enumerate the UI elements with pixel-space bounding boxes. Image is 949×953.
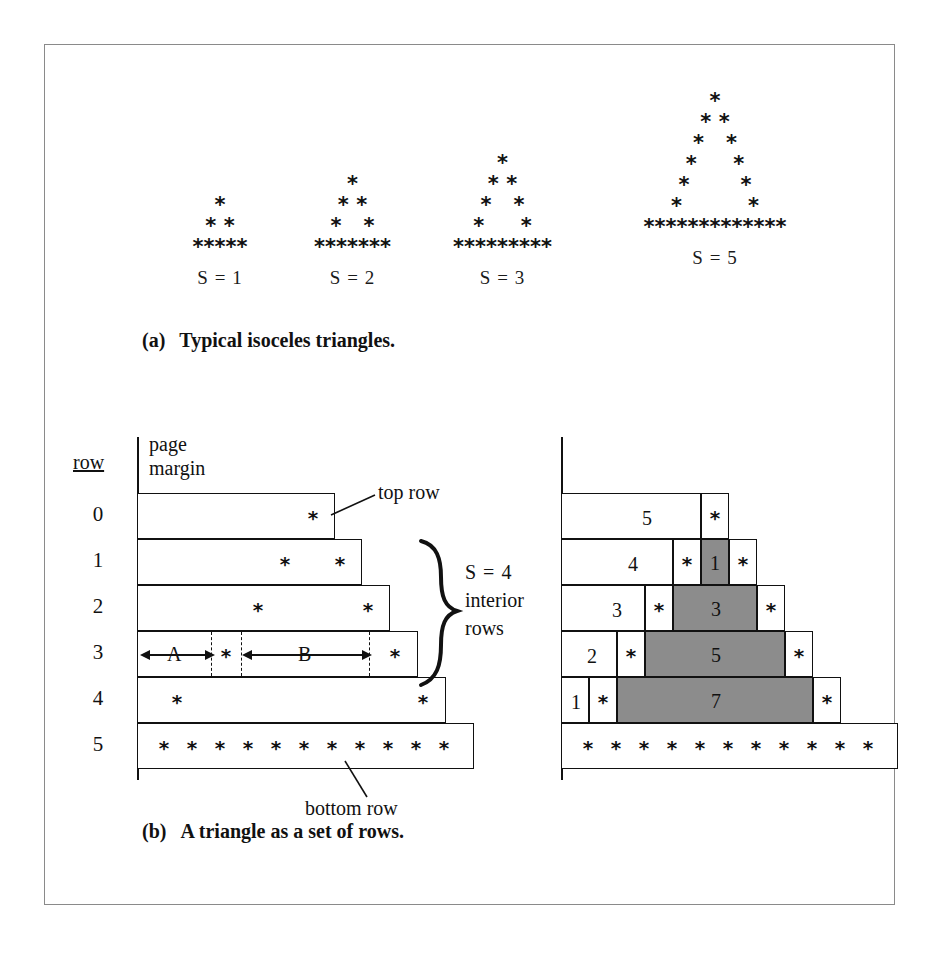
right-row-box-3-interior: 5 xyxy=(645,631,785,677)
left-row-box-4: * * xyxy=(137,677,446,723)
triangle-s2-row-0: * xyxy=(280,174,425,195)
segment-b-label: B xyxy=(298,643,311,666)
left-row-label-1: 1 xyxy=(85,548,111,573)
top-row-label: top row xyxy=(378,481,440,504)
star-glyph: * xyxy=(598,692,608,712)
triangle-s5-row-3: * * xyxy=(590,154,840,175)
triangle-s3-label: S = 3 xyxy=(415,267,590,289)
triangle-s5-label: S = 5 xyxy=(590,247,840,269)
star-glyph: * xyxy=(383,738,393,758)
left-row-label-3: 3 xyxy=(85,640,111,665)
bottom-row-label: bottom row xyxy=(305,797,398,820)
right-row-box-3-star-left: * xyxy=(617,631,645,677)
star-glyph: * xyxy=(779,738,789,758)
star-glyph: * xyxy=(639,738,649,758)
right-row-3-count: 2 xyxy=(587,645,597,668)
triangle-s1: * * * ***** S = 1 xyxy=(155,195,285,289)
triangle-s5-row-1: * * xyxy=(590,112,840,133)
triangle-s3-row-1: * * xyxy=(415,174,590,195)
part-a-star-triangles: * * * ***** S = 1 * * * * * ******* S = … xyxy=(45,45,896,345)
right-row-box-3-count: 2 xyxy=(561,631,617,677)
right-row-box-4-count: 1 xyxy=(561,677,589,723)
star-glyph: * xyxy=(271,738,281,758)
caption-b-text: A triangle as a set of rows. xyxy=(180,820,404,842)
star-glyph: * xyxy=(411,738,421,758)
caption-b: (b)A triangle as a set of rows. xyxy=(142,820,404,843)
star-glyph: * xyxy=(308,508,318,528)
right-row-box-0-star: * xyxy=(701,493,729,539)
star-glyph: * xyxy=(807,738,817,758)
triangle-s5: * * * * * * * * * * * ************* S = … xyxy=(590,91,840,269)
left-row-box-2: * * xyxy=(137,585,390,631)
triangle-s1-row-0: * xyxy=(155,195,285,216)
triangle-s3: * * * * * * * ********* S = 3 xyxy=(415,153,590,289)
right-row-box-1-count: 4 xyxy=(561,539,673,585)
triangle-s3-row-4: ********* xyxy=(415,237,590,258)
row-column-header: row xyxy=(73,451,104,474)
star-glyph: * xyxy=(327,738,337,758)
right-row-box-4-star-right: * xyxy=(813,677,841,723)
triangle-s1-row-2: ***** xyxy=(155,237,285,258)
right-row-box-2-count: 3 xyxy=(561,585,645,631)
star-glyph: * xyxy=(253,600,263,620)
segment-b-end-divider xyxy=(369,632,370,676)
left-row-label-2: 2 xyxy=(85,594,111,619)
star-glyph: * xyxy=(390,646,400,666)
segment-a-label: A xyxy=(167,643,181,666)
brace-label-line3: rows xyxy=(465,617,504,640)
brace-label-line1: S = 4 xyxy=(465,561,512,584)
triangle-s3-row-0: * xyxy=(415,153,590,174)
right-row-box-1-interior: 1 xyxy=(701,539,729,585)
right-row-diagram: 5 * 4 * 1 * 3 * xyxy=(515,345,896,775)
star-glyph: * xyxy=(280,554,290,574)
right-row-box-2-star-right: * xyxy=(757,585,785,631)
page-margin-label-line2: margin xyxy=(149,457,205,480)
left-row-box-5: * * * * * * * * * * * xyxy=(137,723,474,769)
star-glyph: * xyxy=(695,738,705,758)
triangle-s5-row-5: * * xyxy=(590,196,840,217)
triangle-s2-row-1: * * xyxy=(280,195,425,216)
right-row-3-interior: 5 xyxy=(711,644,721,667)
left-row-box-0: * xyxy=(137,493,335,539)
right-row-2-interior: 3 xyxy=(711,598,721,621)
right-row-2-count: 3 xyxy=(612,599,622,622)
star-glyph: * xyxy=(172,692,182,712)
left-row-diagram: row page margin 0 1 2 3 4 5 * * * xyxy=(45,345,465,765)
left-row-label-4: 4 xyxy=(85,686,111,711)
star-glyph: * xyxy=(863,738,873,758)
star-glyph: * xyxy=(751,738,761,758)
triangle-s5-row-4: * * xyxy=(590,175,840,196)
star-glyph: * xyxy=(187,738,197,758)
star-glyph: * xyxy=(654,600,664,620)
star-glyph: * xyxy=(355,738,365,758)
right-row-box-2-star-left: * xyxy=(645,585,673,631)
right-row-box-4-star-left: * xyxy=(589,677,617,723)
figure-frame: * * * ***** S = 1 * * * * * ******* S = … xyxy=(44,44,895,905)
triangle-s3-row-3: * * xyxy=(415,216,590,237)
triangle-s2-row-2: * * xyxy=(280,216,425,237)
right-row-1-interior: 1 xyxy=(710,552,720,575)
triangle-s1-row-1: * * xyxy=(155,216,285,237)
right-row-box-5: * * * * * * * * * * * xyxy=(561,723,898,769)
triangle-s5-row-0: * xyxy=(590,91,840,112)
star-cell-divider xyxy=(241,632,242,676)
caption-b-tag: (b) xyxy=(142,820,166,842)
star-glyph: * xyxy=(766,600,776,620)
left-row-box-3: * * A B xyxy=(137,631,418,677)
star-glyph: * xyxy=(439,738,449,758)
star-glyph: * xyxy=(682,554,692,574)
star-glyph: * xyxy=(215,738,225,758)
star-glyph: * xyxy=(299,738,309,758)
right-row-box-2-interior: 3 xyxy=(673,585,757,631)
page-margin-label-line1: page xyxy=(149,433,187,456)
part-b-rows-diagram: row page margin 0 1 2 3 4 5 * * * xyxy=(45,345,896,825)
star-glyph: * xyxy=(243,738,253,758)
triangle-s5-row-2: * * xyxy=(590,133,840,154)
star-glyph: * xyxy=(335,554,345,574)
left-row-box-1: * * xyxy=(137,539,362,585)
triangle-s2: * * * * * ******* S = 2 xyxy=(280,174,425,289)
left-row-label-0: 0 xyxy=(85,502,111,527)
star-glyph: * xyxy=(159,738,169,758)
star-glyph: * xyxy=(221,646,231,666)
triangle-s1-label: S = 1 xyxy=(155,267,285,289)
